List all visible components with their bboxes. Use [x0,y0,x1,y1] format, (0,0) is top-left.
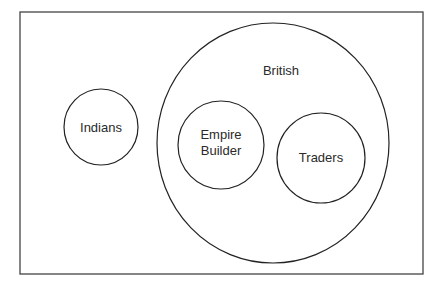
empire-builder-label-line1: Empire [200,127,241,142]
traders-label: Traders [299,150,344,165]
venn-diagram: Indians British Empire Builder Traders [0,0,442,289]
indians-label: Indians [80,120,122,135]
british-circle [157,23,389,263]
british-label: British [263,63,299,78]
empire-builder-label-line2: Builder [201,143,242,158]
